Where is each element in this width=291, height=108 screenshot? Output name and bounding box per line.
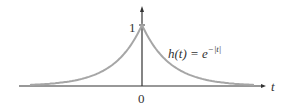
y-axis-arrow-icon	[140, 6, 144, 12]
x-tick-label-0: 0	[138, 91, 145, 106]
chart: 1 0 t h(t) = e−|t|	[0, 0, 291, 108]
function-label: h(t) = e−|t|	[168, 44, 221, 61]
x-axis-label: t	[271, 79, 275, 94]
x-axis-arrow-icon	[261, 84, 266, 88]
y-tick-label-1: 1	[129, 20, 136, 35]
function-label-exponent: −|t|	[208, 44, 222, 54]
function-label-base: h(t) = e	[168, 46, 208, 61]
